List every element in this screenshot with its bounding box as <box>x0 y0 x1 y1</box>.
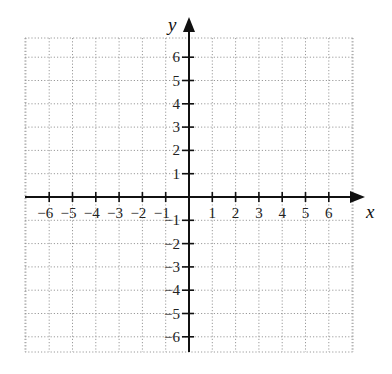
x-tick-label: −2 <box>130 205 146 221</box>
x-tick-label: 6 <box>325 205 333 221</box>
x-tick-label: −4 <box>84 205 100 221</box>
x-tick-label: 1 <box>209 205 217 221</box>
x-tick-label: −5 <box>61 205 77 221</box>
y-tick-label: −3 <box>164 259 180 275</box>
x-tick-label: −6 <box>37 205 53 221</box>
x-tick-label: −3 <box>107 205 123 221</box>
x-tick-label: 2 <box>232 205 240 221</box>
x-tick-label: 3 <box>255 205 263 221</box>
x-axis-arrow-icon <box>350 191 365 203</box>
x-tick-label: 4 <box>278 205 286 221</box>
y-tick-label: 3 <box>173 119 181 135</box>
y-axis-label: y <box>166 14 177 35</box>
y-tick-label: 2 <box>173 142 181 158</box>
y-tick-label: −1 <box>164 212 180 228</box>
y-tick-label: −4 <box>164 282 180 298</box>
coordinate-plane: −6−5−4−3−2−1123456654321−1−2−3−4−5−6 x y <box>0 0 392 374</box>
x-tick-label: 5 <box>302 205 310 221</box>
axes <box>25 17 365 352</box>
y-tick-label: 4 <box>173 96 181 112</box>
y-tick-label: −5 <box>164 306 180 322</box>
x-axis-label: x <box>365 201 375 222</box>
y-axis-arrow-icon <box>183 17 195 32</box>
y-tick-label: 6 <box>173 49 181 65</box>
y-tick-label: 1 <box>173 166 181 182</box>
y-tick-label: 5 <box>173 73 181 89</box>
y-tick-label: −2 <box>164 236 180 252</box>
y-tick-label: −6 <box>164 329 180 345</box>
